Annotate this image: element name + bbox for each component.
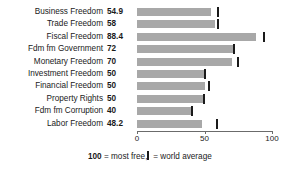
value-bar bbox=[137, 58, 232, 66]
world-average-marker bbox=[203, 94, 205, 104]
value-bar bbox=[137, 33, 256, 41]
category-label: Trade Freedom bbox=[0, 18, 103, 30]
value-bar bbox=[137, 70, 205, 78]
category-value: 50 bbox=[107, 68, 116, 80]
world-average-marker-icon bbox=[147, 151, 149, 160]
table-row: Fdm fm Government72 bbox=[0, 43, 282, 55]
value-bar bbox=[137, 107, 191, 115]
world-average-marker bbox=[263, 32, 265, 42]
category-label: Property Rights bbox=[0, 93, 103, 105]
category-label: Fiscal Freedom bbox=[0, 31, 103, 43]
axis-tick-label: 100 bbox=[265, 134, 278, 144]
table-row: Investment Freedom50 bbox=[0, 68, 282, 80]
category-label: Labor Freedom bbox=[0, 118, 103, 130]
value-bar bbox=[137, 82, 205, 90]
legend-most-free-text: = most free, bbox=[102, 152, 148, 161]
category-label: Financial Freedom bbox=[0, 80, 103, 92]
category-value: 70 bbox=[107, 56, 116, 68]
axis-tick-label: 50 bbox=[200, 134, 209, 144]
category-value: 50 bbox=[107, 80, 116, 92]
category-value: 48.2 bbox=[107, 118, 123, 130]
world-average-marker bbox=[208, 81, 210, 91]
world-average-marker bbox=[204, 69, 206, 79]
world-average-marker bbox=[191, 106, 193, 116]
category-value: 72 bbox=[107, 43, 116, 55]
table-row: Financial Freedom50 bbox=[0, 80, 282, 92]
table-row: Monetary Freedom70 bbox=[0, 56, 282, 68]
category-value: 58 bbox=[107, 18, 116, 30]
legend-most-free: 100 = most free, bbox=[88, 150, 147, 164]
value-bar bbox=[137, 20, 215, 28]
value-bar bbox=[137, 95, 205, 103]
table-row: Property Rights50 bbox=[0, 93, 282, 105]
x-axis: 050100 bbox=[0, 131, 282, 145]
value-bar bbox=[137, 45, 234, 53]
legend-world-average: = world average bbox=[147, 150, 212, 164]
value-bar bbox=[137, 120, 202, 128]
category-value: 88.4 bbox=[107, 31, 123, 43]
table-row: Fdm fm Corruption40 bbox=[0, 105, 282, 117]
category-label: Investment Freedom bbox=[0, 68, 103, 80]
category-value: 54.9 bbox=[107, 6, 123, 18]
legend-world-average-text: = world average bbox=[151, 152, 212, 161]
world-average-marker bbox=[217, 19, 219, 29]
legend-most-free-value: 100 bbox=[88, 152, 102, 161]
category-label: Monetary Freedom bbox=[0, 56, 103, 68]
world-average-marker bbox=[237, 57, 239, 67]
world-average-marker bbox=[233, 44, 235, 54]
table-row: Trade Freedom58 bbox=[0, 18, 282, 30]
category-label: Business Freedom bbox=[0, 6, 103, 18]
axis-tick-label: 0 bbox=[135, 134, 139, 144]
freedom-index-bar-chart: Business Freedom54.9Trade Freedom58Fisca… bbox=[0, 0, 282, 171]
category-label: Fdm fm Corruption bbox=[0, 105, 103, 117]
category-value: 40 bbox=[107, 105, 116, 117]
table-row: Fiscal Freedom88.4 bbox=[0, 31, 282, 43]
value-bar bbox=[137, 8, 211, 16]
chart-legend: 100 = most free, = world average bbox=[0, 150, 282, 164]
category-label: Fdm fm Government bbox=[0, 43, 103, 55]
table-row: Labor Freedom48.2 bbox=[0, 118, 282, 130]
world-average-marker bbox=[216, 119, 218, 129]
table-row: Business Freedom54.9 bbox=[0, 6, 282, 18]
category-value: 50 bbox=[107, 93, 116, 105]
world-average-marker bbox=[217, 7, 219, 17]
